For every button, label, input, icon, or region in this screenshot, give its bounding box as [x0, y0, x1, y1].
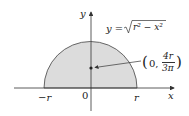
y-axis-label: y — [80, 9, 86, 19]
curve-equation-radicand: r² − x² — [133, 23, 163, 32]
r-tick-label: r — [134, 93, 139, 103]
centroid-numerator: 4r — [163, 52, 173, 61]
centroid-x: 0, — [149, 59, 159, 69]
centroid-denominator: 3π — [162, 64, 174, 73]
semicircle-region — [44, 42, 137, 89]
curve-equation-lhs: y = — [106, 24, 123, 34]
centroid-dot — [89, 66, 92, 69]
neg-r-tick-label: −r — [38, 93, 51, 103]
x-axis-label: x — [168, 91, 174, 101]
centroid-open-paren: ( — [142, 55, 148, 70]
diagram-canvas — [0, 0, 189, 116]
centroid-close-paren: ) — [176, 55, 182, 70]
origin-label: 0 — [82, 91, 88, 101]
